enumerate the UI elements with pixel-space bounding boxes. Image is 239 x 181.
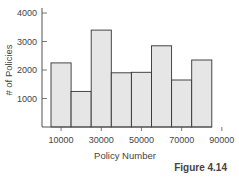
figure-label: Figure 4.14: [174, 162, 227, 173]
x-tick-label: 10000: [49, 135, 74, 145]
y-tick-label: 2000: [17, 65, 37, 75]
x-tick-label: 30000: [89, 135, 114, 145]
y-tick-label: 3000: [17, 37, 37, 47]
histogram-bar: [152, 46, 172, 127]
x-tick-label: 70000: [169, 135, 194, 145]
histogram-chart: 1000200030004000 10000300005000070000900…: [0, 0, 239, 181]
histogram-bar: [172, 80, 192, 127]
histogram-bar: [51, 63, 71, 127]
histogram-bar: [111, 73, 131, 127]
histogram-bar: [192, 60, 212, 127]
histogram-bars: [51, 30, 212, 127]
x-tick-label: 50000: [129, 135, 154, 145]
x-tick-label: 90000: [209, 135, 234, 145]
histogram-bar: [131, 72, 151, 127]
histogram-bar: [71, 91, 91, 127]
y-tick-label: 4000: [17, 8, 37, 18]
x-axis-title: Policy Number: [94, 150, 156, 161]
y-axis-title: # of Policies: [3, 44, 14, 95]
y-tick-label: 1000: [17, 94, 37, 104]
histogram-bar: [91, 30, 111, 127]
x-axis-ticks: 1000030000500007000090000: [49, 127, 235, 145]
